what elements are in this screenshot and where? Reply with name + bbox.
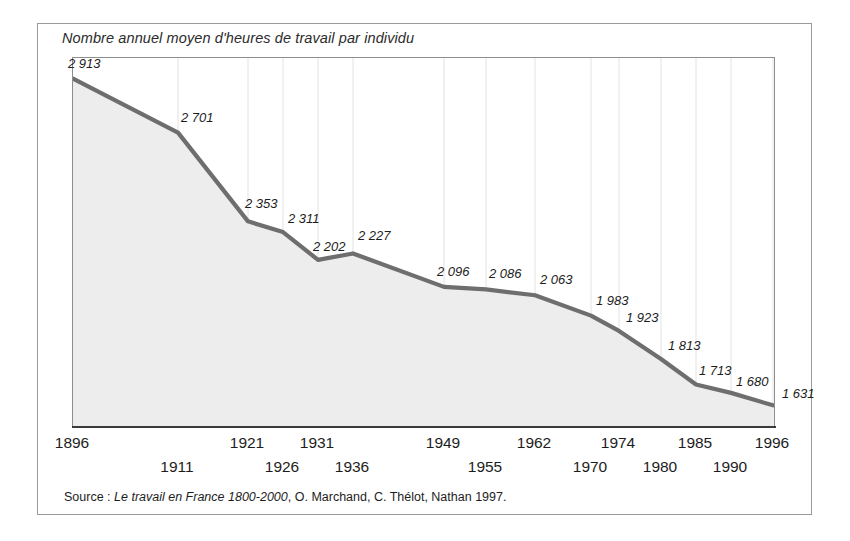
value-label-1996: 1 631	[782, 386, 815, 401]
value-label-1896: 2 913	[68, 56, 101, 71]
value-label-1990: 1 680	[736, 374, 769, 389]
x-tick-label-1911: 1911	[160, 458, 193, 476]
value-label-1962: 2 063	[540, 272, 573, 287]
x-tick-label-1926: 1926	[265, 458, 299, 476]
source-title: Le travail en France 1800-2000	[114, 490, 288, 504]
x-tick-label-1985: 1985	[678, 434, 712, 452]
value-label-1955: 2 086	[489, 266, 522, 281]
x-axis-line	[72, 426, 776, 428]
value-label-1911: 2 701	[181, 110, 214, 125]
value-label-1974: 1 923	[626, 310, 659, 325]
x-tick-label-1896: 1896	[55, 434, 89, 452]
value-label-1985: 1 713	[699, 363, 732, 378]
x-tick-label-1936: 1936	[335, 458, 369, 476]
value-label-1926: 2 311	[288, 211, 320, 226]
x-tick-label-1990: 1990	[713, 458, 747, 476]
value-label-1949: 2 096	[437, 264, 470, 279]
x-tick-label-1974: 1974	[601, 434, 635, 452]
x-tick-label-1949: 1949	[426, 434, 460, 452]
x-tick-label-1931: 1931	[300, 434, 334, 452]
x-tick-label-1996: 1996	[755, 434, 789, 452]
x-tick-label-1955: 1955	[468, 458, 502, 476]
source-note: Source : Le travail en France 1800-2000,…	[64, 490, 506, 504]
chart-figure: Nombre annuel moyen d'heures de travail …	[0, 0, 850, 541]
value-label-1936: 2 227	[358, 228, 391, 243]
value-label-1931: 2 202	[313, 239, 346, 254]
source-rest: , O. Marchand, C. Thélot, Nathan 1997.	[288, 490, 507, 504]
x-tick-label-1970: 1970	[573, 458, 607, 476]
plot-area	[72, 57, 775, 427]
x-tick-label-1962: 1962	[517, 434, 551, 452]
chart-title: Nombre annuel moyen d'heures de travail …	[62, 30, 414, 46]
x-tick-label-1921: 1921	[230, 434, 264, 452]
value-label-1970: 1 983	[596, 293, 629, 308]
x-tick-label-1980: 1980	[643, 458, 677, 476]
source-prefix: Source :	[64, 490, 114, 504]
line-chart-svg	[73, 58, 774, 426]
value-label-1980: 1 813	[668, 338, 701, 353]
value-label-1921: 2 353	[245, 196, 278, 211]
